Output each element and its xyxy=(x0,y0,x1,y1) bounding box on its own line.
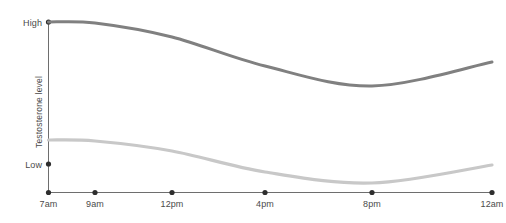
y-tick-label-low: Low xyxy=(25,160,42,170)
x-tick-dot-4pm xyxy=(262,190,267,195)
x-tick-dot-9am xyxy=(92,190,97,195)
x-tick-label-8pm: 8pm xyxy=(363,199,381,209)
x-tick-label-4pm: 4pm xyxy=(256,199,274,209)
y-tick-label-high: High xyxy=(23,18,42,28)
x-tick-label-9am: 9am xyxy=(86,199,104,209)
series-group xyxy=(49,22,493,184)
x-tick-dot-7am xyxy=(46,190,51,195)
x-tick-dot-8pm xyxy=(369,190,374,195)
y-axis-title: Testosterone level xyxy=(34,76,44,148)
x-tick-label-7am: 7am xyxy=(40,199,58,209)
series-line-lower-curve xyxy=(49,140,493,183)
x-tick-dot-12pm xyxy=(169,190,174,195)
chart-canvas: High Low Testosterone level 7am 9am 12pm… xyxy=(0,0,506,223)
series-line-upper-curve xyxy=(49,22,493,86)
x-tick-labels: 7am 9am 12pm 4pm 8pm 12am xyxy=(40,199,504,209)
x-tick-dot-12am xyxy=(489,190,494,195)
axes-group xyxy=(48,22,492,193)
x-tick-label-12pm: 12pm xyxy=(161,199,184,209)
testosterone-level-chart: High Low Testosterone level 7am 9am 12pm… xyxy=(0,0,506,223)
y-tick-dot-low xyxy=(46,161,51,166)
x-tick-label-12am: 12am xyxy=(481,199,504,209)
